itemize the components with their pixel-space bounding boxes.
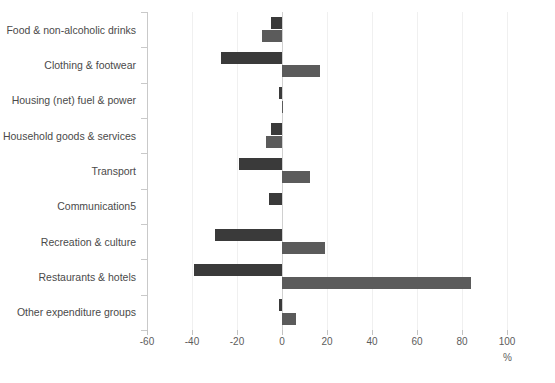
- x-axis-tick: [327, 330, 328, 335]
- x-axis-tick-label: 0: [279, 336, 285, 347]
- x-axis-tick-label: 40: [366, 336, 377, 347]
- x-axis-tick: [282, 330, 283, 335]
- bar-series-a: [269, 193, 283, 205]
- bar-series-b: [282, 313, 296, 325]
- category-label: Housing (net) fuel & power: [12, 94, 136, 106]
- y-axis-tick: [141, 47, 147, 48]
- x-axis-tick: [372, 330, 373, 335]
- x-axis-tick-labels: -60-40-20020406080100: [147, 336, 507, 352]
- y-axis-tick: [141, 12, 147, 13]
- plot-area: Food & non-alcoholic drinksClothing & fo…: [147, 12, 507, 330]
- chart-category-row: Clothing & footwear: [147, 47, 507, 82]
- y-axis-tick: [141, 153, 147, 154]
- x-gridline: [507, 12, 508, 330]
- y-axis-tick: [141, 259, 147, 260]
- x-axis-tick: [507, 330, 508, 335]
- bar-series-a: [271, 123, 282, 135]
- chart-category-row: Household goods & services: [147, 118, 507, 153]
- category-label: Communication5: [57, 200, 136, 212]
- bar-series-a: [194, 264, 282, 276]
- bar-series-b: [266, 136, 282, 148]
- chart-category-row: Communication5: [147, 189, 507, 224]
- x-axis-tick-label: 80: [456, 336, 467, 347]
- chart-category-row: Housing (net) fuel & power: [147, 83, 507, 118]
- y-axis-tick: [141, 118, 147, 119]
- bar-series-b: [282, 171, 310, 183]
- y-axis-tick: [141, 295, 147, 296]
- bar-series-a: [271, 17, 282, 29]
- bar-series-a: [221, 52, 282, 64]
- y-axis-tick: [141, 330, 147, 331]
- x-axis-tick-label: -60: [140, 336, 154, 347]
- bar-series-b: [282, 65, 320, 77]
- y-axis-tick: [141, 83, 147, 84]
- x-axis-tick: [417, 330, 418, 335]
- x-axis-tick-label: 20: [321, 336, 332, 347]
- bar-series-a: [279, 87, 282, 99]
- y-axis-tick: [141, 224, 147, 225]
- chart-page: Food & non-alcoholic drinksClothing & fo…: [0, 0, 555, 383]
- bar-series-b: [282, 242, 325, 254]
- category-label: Household goods & services: [3, 130, 136, 142]
- x-axis-tick: [192, 330, 193, 335]
- category-label: Restaurants & hotels: [39, 271, 136, 283]
- x-axis-unit-label: %: [503, 352, 512, 363]
- category-label: Food & non-alcoholic drinks: [6, 24, 136, 36]
- x-axis-tick-label: 60: [411, 336, 422, 347]
- category-label: Recreation & culture: [41, 236, 136, 248]
- y-axis-tick: [141, 189, 147, 190]
- x-axis-tick: [237, 330, 238, 335]
- chart-category-row: Other expenditure groups: [147, 295, 507, 330]
- x-axis-tick-label: -40: [185, 336, 199, 347]
- bar-series-a: [239, 158, 282, 170]
- chart-category-row: Food & non-alcoholic drinks: [147, 12, 507, 47]
- bar-series-a: [279, 299, 282, 311]
- category-label: Transport: [91, 165, 136, 177]
- x-axis-tick-label: 100: [499, 336, 516, 347]
- x-axis-tick-label: -20: [230, 336, 244, 347]
- category-label: Clothing & footwear: [44, 59, 136, 71]
- chart-category-row: Restaurants & hotels: [147, 259, 507, 294]
- chart-category-row: Transport: [147, 153, 507, 188]
- bar-series-b: [282, 101, 283, 113]
- x-axis-tick: [462, 330, 463, 335]
- chart-category-row: Recreation & culture: [147, 224, 507, 259]
- category-label: Other expenditure groups: [17, 306, 136, 318]
- x-axis-tick: [147, 330, 148, 335]
- bar-series-a: [215, 229, 283, 241]
- bar-series-b: [282, 277, 471, 289]
- bar-series-b: [262, 30, 282, 42]
- clipped-title-remnant: [163, 0, 283, 5]
